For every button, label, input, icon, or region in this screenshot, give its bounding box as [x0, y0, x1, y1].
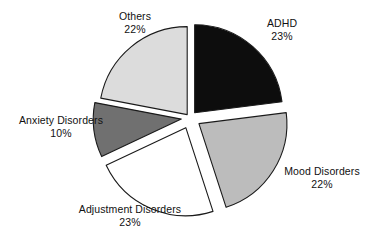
slice-label-adhd-percent: 23%	[254, 30, 310, 43]
slice-label-anxiety-disorders-name: Anxiety Disorders	[6, 114, 116, 127]
slice-label-adjustment-disorders-name: Adjustment Disorders	[64, 203, 196, 216]
slice-label-adjustment-disorders-percent: 23%	[64, 216, 196, 229]
slice-label-adhd: ADHD 23%	[254, 17, 310, 42]
slice-label-adhd-name: ADHD	[254, 17, 310, 30]
pie-slice-mood-disorders	[199, 113, 287, 208]
slice-label-anxiety-disorders-percent: 10%	[6, 127, 116, 140]
pie-chart: Others 22% ADHD 23% Mood Disorders 22% A…	[0, 0, 375, 240]
slice-label-mood-disorders-name: Mood Disorders	[272, 165, 372, 178]
slice-label-adjustment-disorders: Adjustment Disorders 23%	[64, 203, 196, 228]
slice-label-others-percent: 22%	[104, 23, 166, 36]
pie-slice-others	[101, 27, 187, 115]
pie-slices-group	[93, 25, 287, 216]
slice-label-others-name: Others	[104, 10, 166, 23]
slice-label-others: Others 22%	[104, 10, 166, 35]
slice-label-mood-disorders-percent: 22%	[272, 178, 372, 191]
slice-label-anxiety-disorders: Anxiety Disorders 10%	[6, 114, 116, 139]
slice-label-mood-disorders: Mood Disorders 22%	[272, 165, 372, 190]
